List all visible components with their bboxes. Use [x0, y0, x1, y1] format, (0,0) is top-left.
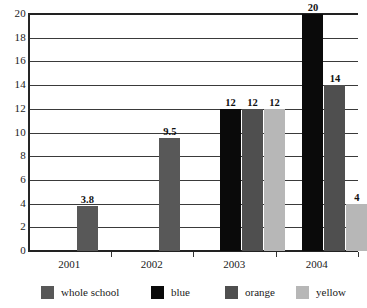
y-tick-label-12: 12 [0, 103, 26, 114]
bar-value-2002-whole-school: 9.5 [153, 126, 186, 137]
bar-value-2004-orange: 14 [318, 73, 351, 84]
x-tick-label-2001: 2001 [39, 258, 99, 270]
y-axis-line [28, 14, 30, 252]
bar-chart: 02468101214161820 3.89.512121220144 2001… [0, 0, 367, 308]
chart-legend: whole schoolblueorangeyellow [0, 282, 367, 304]
bar-2003-yellow[interactable] [264, 109, 285, 251]
legend-swatch-icon [296, 286, 309, 299]
bar-value-2004-blue: 20 [296, 2, 329, 13]
legend-swatch-icon [151, 286, 164, 299]
x-tick-label-2003: 2003 [204, 258, 264, 270]
bar-2004-yellow[interactable] [346, 204, 367, 251]
bar-2004-blue[interactable] [302, 14, 323, 251]
y-tick-label-16: 16 [0, 55, 26, 66]
y-tick-label-18: 18 [0, 32, 26, 43]
bar-2003-orange[interactable] [242, 109, 263, 251]
legend-label: blue [171, 286, 190, 298]
legend-item-blue[interactable]: blue [151, 282, 190, 302]
y-tick-label-6: 6 [0, 174, 26, 185]
x-tick-label-2002: 2002 [122, 258, 182, 270]
bar-value-2001-whole-school: 3.8 [71, 194, 104, 205]
legend-item-whole-school[interactable]: whole school [41, 282, 119, 302]
y-tick-label-14: 14 [0, 79, 26, 90]
bar-value-2004-yellow: 4 [340, 192, 367, 203]
y-tick-label-10: 10 [0, 127, 26, 138]
y-tick-label-2: 2 [0, 221, 26, 232]
x-tick-label-2004: 2004 [287, 258, 347, 270]
legend-item-orange[interactable]: orange [225, 282, 275, 302]
x-tick-2001 [111, 252, 112, 257]
x-tick-2003 [276, 252, 277, 257]
y-tick-label-4: 4 [0, 198, 26, 209]
legend-label: yellow [316, 286, 346, 298]
y-tick-label-8: 8 [0, 150, 26, 161]
y-tick-label-0: 0 [0, 245, 26, 256]
legend-label: orange [245, 286, 275, 298]
bar-2003-blue[interactable] [220, 109, 241, 251]
legend-swatch-icon [225, 286, 238, 299]
x-tick-2002 [193, 252, 194, 257]
bar-value-2003-yellow: 12 [258, 97, 291, 108]
bar-2004-orange[interactable] [324, 85, 345, 251]
bar-2002-whole-school[interactable] [159, 138, 180, 251]
y-tick-label-20: 20 [0, 8, 26, 19]
legend-item-yellow[interactable]: yellow [296, 282, 346, 302]
bar-2001-whole-school[interactable] [77, 206, 98, 251]
legend-swatch-icon [41, 286, 54, 299]
x-tick-2004 [358, 252, 359, 257]
legend-label: whole school [61, 286, 119, 298]
